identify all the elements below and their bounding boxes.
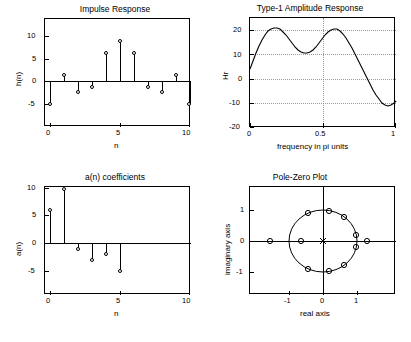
y-tick-label: 5	[32, 54, 36, 63]
coefficients-zero-line	[45, 243, 191, 244]
x-tick-label: 1	[354, 296, 358, 305]
x-tick-label: 0	[247, 129, 251, 138]
x-tick	[289, 291, 290, 295]
y-tick-label: 10	[27, 183, 35, 192]
x-tick	[189, 123, 190, 127]
amplitude-response-axes	[249, 17, 395, 127]
x-tick-label: -1	[284, 296, 291, 305]
impulse-response-axes	[44, 18, 190, 126]
x-tick-label: 5	[116, 128, 120, 137]
coefficients-title: a(n) coefficients	[45, 172, 185, 182]
pole-zero-title: Pole-Zero Plot	[235, 172, 365, 182]
y-tick-label: -5	[28, 99, 35, 108]
y-axis-label: imaginary axis	[223, 224, 232, 275]
x-tick-label: 0	[320, 296, 324, 305]
y-tick-label: 1	[240, 205, 244, 214]
x-tick-label: 10	[182, 296, 190, 305]
data-marker	[90, 258, 94, 262]
impulse-zero-line	[45, 81, 191, 82]
y-tick	[250, 241, 254, 242]
y-tick-label: -10	[229, 98, 240, 107]
y-tick	[250, 210, 254, 211]
x-tick-label: 10	[182, 128, 190, 137]
x-axis-label: n	[114, 309, 118, 318]
y-axis-label: Hr	[221, 72, 230, 80]
panel-pole-zero: Pole-Zero Plot z-plane	[205, 170, 411, 342]
stem-line	[134, 53, 135, 81]
coefficients-axes	[44, 186, 190, 294]
data-marker	[76, 247, 80, 251]
data-marker	[118, 39, 122, 43]
panel-amplitude-response: Type-1 Amplitude Response 0 0.5 1 20 10 …	[205, 0, 411, 170]
y-tick-label: -20	[229, 122, 240, 131]
stem-line	[190, 81, 191, 104]
x-axis-label: n	[114, 141, 118, 150]
data-marker	[62, 73, 66, 77]
x-axis-label: real axis	[300, 309, 330, 318]
y-axis-label: h(n)	[14, 72, 23, 86]
data-marker	[48, 208, 52, 212]
y-tick-label: 0	[238, 74, 242, 83]
data-marker	[90, 85, 94, 89]
pole-zero-axes	[249, 186, 395, 294]
y-tick-label: -5	[28, 266, 35, 275]
y-tick	[45, 271, 49, 272]
data-marker	[160, 90, 164, 94]
x-tick	[120, 123, 121, 127]
x-tick	[120, 291, 121, 295]
data-marker	[104, 51, 108, 55]
zero-markers	[267, 208, 369, 273]
stem-line	[64, 188, 65, 243]
figure-canvas: Impulse Response	[0, 0, 411, 342]
y-tick-label: 10	[233, 50, 241, 59]
y-tick	[250, 103, 254, 104]
x-axis-label: frequency in pi units	[277, 142, 348, 151]
data-marker	[174, 73, 178, 77]
y-tick-label: 0	[32, 76, 36, 85]
y-tick	[250, 272, 254, 273]
y-tick	[45, 188, 49, 189]
x-tick-label: 0.5	[315, 129, 325, 138]
pole-marker	[320, 238, 326, 244]
data-marker	[146, 85, 150, 89]
y-tick	[250, 79, 254, 80]
x-tick-label: 1	[391, 129, 395, 138]
y-tick	[250, 54, 254, 55]
x-tick-label: 5	[116, 296, 120, 305]
data-marker	[104, 252, 108, 256]
x-tick	[323, 123, 324, 128]
stem-line	[120, 41, 121, 81]
panel-coefficients: a(n) coefficients 0	[0, 170, 205, 342]
y-tick	[45, 243, 49, 244]
stem-line	[106, 53, 107, 81]
data-marker	[62, 187, 66, 191]
amplitude-response-curve	[250, 18, 396, 128]
data-marker	[132, 51, 136, 55]
y-tick	[45, 81, 49, 82]
y-tick-label: 0	[240, 236, 244, 245]
amplitude-response-title: Type-1 Amplitude Response	[225, 3, 395, 13]
panel-impulse-response: Impulse Response	[0, 0, 205, 170]
data-marker	[187, 102, 191, 106]
x-tick	[50, 291, 51, 295]
x-tick	[323, 291, 324, 295]
data-marker	[76, 90, 80, 94]
x-tick	[357, 291, 358, 295]
y-axis-label: a(n)	[14, 242, 23, 256]
y-tick	[45, 36, 49, 37]
y-tick-label: -1	[236, 267, 243, 276]
pole-zero-graphics	[250, 187, 396, 295]
x-tick-label: 0	[46, 296, 50, 305]
stem-line	[50, 210, 51, 243]
data-marker	[118, 269, 122, 273]
x-tick	[189, 291, 190, 295]
y-tick-label: 5	[32, 210, 36, 219]
y-tick	[250, 30, 254, 31]
x-tick-label: 0	[46, 128, 50, 137]
y-tick	[250, 127, 254, 128]
y-tick	[45, 59, 49, 60]
y-tick	[45, 215, 49, 216]
stem-line	[120, 243, 121, 271]
x-tick	[50, 123, 51, 127]
y-tick-label: 10	[27, 31, 35, 40]
